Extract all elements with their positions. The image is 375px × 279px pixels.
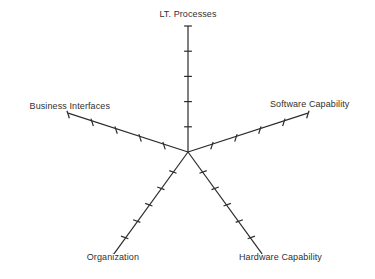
- axis-label-hardware-capability: Hardware Capability: [239, 252, 322, 263]
- axis-label-software-capability: Software Capability: [270, 99, 349, 110]
- radar-chart: LT. Processes Software Capability Hardwa…: [0, 0, 375, 279]
- axis-spoke-business-interfaces: [67, 111, 188, 152]
- axis-label-organization: Organization: [87, 252, 139, 263]
- axis-spoke-organization: [114, 152, 188, 254]
- axis-label-business-interfaces: Business Interfaces: [30, 101, 110, 112]
- radar-chart-canvas: [0, 0, 375, 279]
- axis-spoke-software-capability: [188, 111, 309, 152]
- axis-spoke-hardware-capability: [188, 152, 262, 254]
- axis-label-lt-processes: LT. Processes: [159, 9, 216, 20]
- axis-spoke-lt-processes: [184, 26, 192, 152]
